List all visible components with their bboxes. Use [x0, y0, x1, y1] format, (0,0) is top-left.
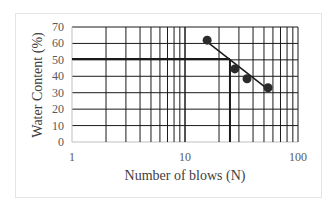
- y-axis-title: Water Content (%): [30, 32, 46, 138]
- y-tick-labels: 010203040506070: [52, 20, 64, 149]
- data-point: [203, 36, 212, 45]
- data-point: [243, 74, 252, 83]
- data-point: [230, 64, 239, 73]
- x-tick-label: 10: [179, 150, 191, 164]
- grid-lines: [72, 27, 298, 142]
- y-tick-label: 0: [58, 135, 64, 149]
- x-axis-title: Number of blows (N): [125, 168, 246, 184]
- y-tick-label: 60: [52, 36, 64, 50]
- chart-plot: 010203040506070 110100 Number of blows (…: [0, 0, 335, 205]
- y-tick-label: 40: [52, 69, 64, 83]
- y-tick-label: 10: [52, 119, 64, 133]
- y-tick-label: 70: [52, 20, 64, 34]
- data-points: [203, 36, 273, 93]
- data-point: [264, 83, 273, 92]
- x-tick-label: 1: [69, 150, 75, 164]
- y-tick-label: 30: [52, 86, 64, 100]
- x-tick-labels: 110100: [69, 150, 307, 164]
- x-tick-label: 100: [289, 150, 307, 164]
- y-tick-label: 20: [52, 102, 64, 116]
- y-tick-label: 50: [52, 53, 64, 67]
